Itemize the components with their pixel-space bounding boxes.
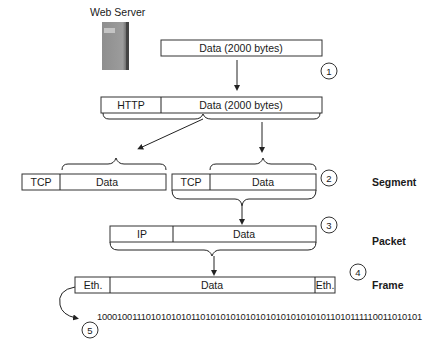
segment-2-lower-brace xyxy=(172,190,316,206)
curved-arrow-to-bits xyxy=(60,287,76,318)
svg-text:4: 4 xyxy=(355,267,360,278)
step-2-marker: 2 xyxy=(321,170,337,186)
frame-row: Eth. Data Eth. xyxy=(75,277,335,293)
segment-1-data: Data xyxy=(96,176,118,188)
app-data-label: Data (2000 bytes) xyxy=(199,42,282,54)
frame-trailer: Eth. xyxy=(316,279,335,291)
segment-2-data: Data xyxy=(252,176,274,188)
segment-2: TCP Data xyxy=(172,174,316,190)
frame-label: Frame xyxy=(372,279,404,291)
packet-data: Data xyxy=(233,228,255,240)
server-icon xyxy=(102,22,129,70)
http-row: HTTP Data (2000 bytes) xyxy=(101,97,322,113)
svg-text:2: 2 xyxy=(326,173,331,184)
step-5-marker: 5 xyxy=(82,322,98,338)
http-header-label: HTTP xyxy=(117,99,144,111)
segment-2-brace xyxy=(210,158,316,170)
bit-stream: 1000100111010101010110101010101010101010… xyxy=(97,312,422,322)
svg-text:1: 1 xyxy=(326,66,331,77)
frame-header: Eth. xyxy=(84,279,103,291)
step-1-marker: 1 xyxy=(321,63,337,79)
segment-2-header: TCP xyxy=(181,176,202,188)
app-data-row: Data (2000 bytes) xyxy=(161,40,322,56)
segment-1-header: TCP xyxy=(31,176,52,188)
packet-label: Packet xyxy=(372,235,406,247)
svg-text:3: 3 xyxy=(326,220,331,231)
step-3-marker: 3 xyxy=(321,217,337,233)
arrow-to-segment-1 xyxy=(140,119,203,148)
encapsulation-diagram: Web Server Data (2000 bytes) 1 HTTP Data… xyxy=(0,0,432,351)
frame-data: Data xyxy=(201,279,223,291)
svg-text:5: 5 xyxy=(87,325,92,336)
http-brace xyxy=(103,113,320,119)
segment-1-brace xyxy=(62,158,166,170)
segment-label: Segment xyxy=(372,176,417,188)
packet-row: IP Data xyxy=(110,226,316,242)
segment-1: TCP Data xyxy=(22,174,166,190)
packet-lower-brace xyxy=(110,242,316,256)
http-data-label: Data (2000 bytes) xyxy=(199,99,282,111)
server-label: Web Server xyxy=(90,6,146,18)
step-4-marker: 4 xyxy=(350,264,366,280)
packet-header: IP xyxy=(137,228,147,240)
